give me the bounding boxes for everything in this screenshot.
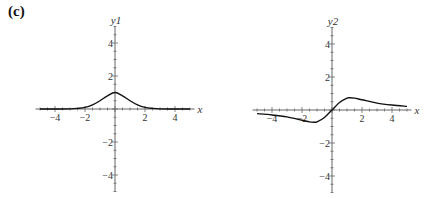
x-tick-label: −4 [50, 112, 61, 123]
y-tick-label: −2 [319, 138, 330, 149]
x-tick-label: 4 [390, 113, 395, 124]
y-tick-label: −4 [319, 171, 330, 182]
y-tick-label: −2 [102, 137, 113, 148]
y-axis-label: y2 [327, 15, 339, 27]
x-tick-label: −2 [80, 112, 91, 123]
y-tick-label: −4 [102, 170, 113, 181]
x-axis-label: x [414, 104, 420, 116]
x-axis-label: x [197, 103, 203, 115]
x-tick-label: −2 [297, 113, 308, 124]
y-axis-label: y1 [110, 14, 121, 26]
chart-2: −4−224−4−224xy2 [253, 15, 420, 193]
y-tick-label: 4 [325, 39, 330, 50]
x-tick-label: 4 [173, 112, 178, 123]
y-tick-label: 2 [108, 71, 113, 82]
x-tick-label: 2 [360, 113, 365, 124]
y-tick-label: 4 [108, 38, 113, 49]
y-tick-label: 2 [325, 72, 330, 83]
chart-canvas: −4−224−4−224xy1−4−224−4−224xy2 [0, 0, 429, 198]
x-tick-label: 2 [143, 112, 148, 123]
chart-1: −4−224−4−224xy1 [36, 14, 203, 192]
